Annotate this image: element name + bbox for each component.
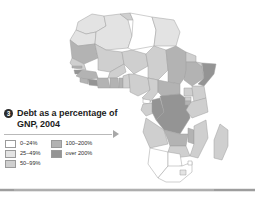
country-togo (119, 78, 123, 88)
debt-percentage-gnp-figure: 3 Debt as a percentage of GNP, 2004 0–24… (0, 0, 255, 203)
footer-divider-accent-right (214, 189, 255, 191)
legend-item: 100–200% (51, 139, 93, 148)
caption-rule-row (4, 130, 132, 139)
legend-item-label: over 200% (66, 150, 93, 157)
legend-item-label: 100–200% (66, 140, 93, 147)
country-niger (122, 50, 148, 74)
country-egypt (152, 17, 180, 46)
legend-item: 0–24% (5, 139, 41, 148)
legend-column-right: 100–200% over 200% (51, 139, 93, 168)
triangle-right-icon (113, 130, 119, 138)
map-legend: 0–24% 25–49% 50–99% 100–200% over 200% (5, 139, 92, 168)
legend-swatch-100-200 (51, 140, 62, 148)
country-rwanda (185, 97, 191, 101)
caption-row: 3 Debt as a percentage of GNP, 2004 (4, 108, 132, 130)
country-madagascar (214, 124, 228, 160)
legend-swatch-25-49 (5, 150, 16, 158)
country-ivory-coast (97, 78, 110, 88)
footer-divider-accent-left (0, 189, 14, 191)
country-libya (128, 13, 156, 50)
legend-item: 25–49% (5, 149, 41, 158)
figure-caption-block: 3 Debt as a percentage of GNP, 2004 (4, 108, 132, 139)
legend-item: 50–99% (5, 159, 41, 168)
legend-item-label: 25–49% (20, 150, 41, 157)
legend-item-label: 50–99% (20, 160, 41, 167)
legend-swatch-50-99 (5, 160, 16, 168)
country-sierra-leone (80, 78, 88, 84)
country-botswana (168, 152, 182, 168)
country-liberia (88, 79, 98, 86)
country-chad (146, 46, 168, 80)
step-number-badge: 3 (4, 109, 13, 118)
legend-column-left: 0–24% 25–49% 50–99% (5, 139, 41, 168)
country-lesotho (180, 170, 186, 175)
legend-swatch-over-200 (51, 150, 62, 158)
horizontal-rule (4, 134, 112, 135)
legend-item-label: 0–24% (20, 140, 37, 147)
country-eritrea (186, 52, 196, 62)
country-swaziland (188, 161, 192, 165)
country-uganda (184, 88, 193, 96)
country-ghana (110, 78, 119, 88)
country-nigeria (129, 74, 150, 96)
country-gambia (72, 66, 82, 68)
page-title: Debt as a percentage of GNP, 2004 (17, 108, 132, 129)
legend-swatch-0-24 (5, 140, 16, 148)
country-malawi (188, 128, 194, 144)
legend-item: over 200% (51, 149, 93, 158)
